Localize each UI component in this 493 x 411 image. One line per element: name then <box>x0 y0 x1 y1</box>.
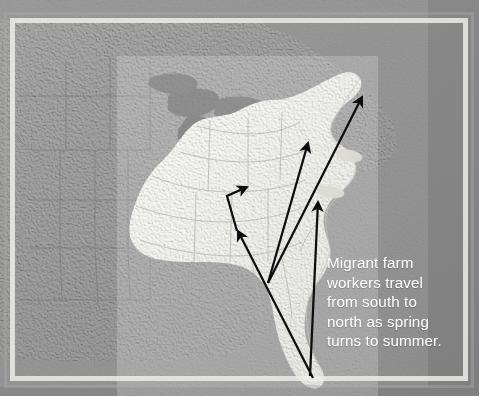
arrow-long-from-florida <box>310 202 318 376</box>
caption-line-1: Migrant farm <box>327 253 467 273</box>
caption-line-5: turns to summer. <box>327 331 467 351</box>
caption-line-3: from south to <box>327 292 467 312</box>
figure-migrant-farm-workers-map: Migrant farm workers travel from south t… <box>0 0 493 411</box>
map-caption: Migrant farm workers travel from south t… <box>327 253 467 351</box>
caption-line-2: workers travel <box>327 273 467 293</box>
arrow-short-bent-midwest <box>227 187 247 231</box>
caption-line-4: north as spring <box>327 312 467 332</box>
arrow-long-to-northeast <box>268 143 308 283</box>
